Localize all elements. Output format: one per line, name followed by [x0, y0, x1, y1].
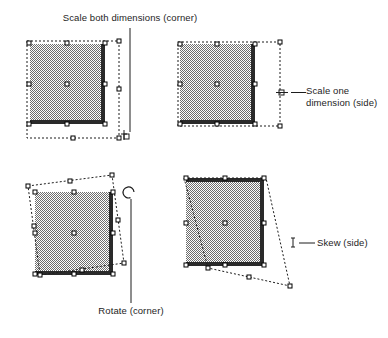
- handle-scaled-top-right[interactable]: [117, 39, 121, 43]
- handle-bottom-right[interactable]: [111, 272, 115, 276]
- handle-skewed-bottom-left[interactable]: [206, 266, 210, 270]
- handle-top-left[interactable]: [178, 42, 182, 46]
- handle-top-right[interactable]: [111, 190, 115, 194]
- caption-scale-side-line2: dimension (side): [306, 97, 388, 109]
- scale-diagonal-corner-cursor-icon: [121, 130, 129, 140]
- handle-center[interactable]: [215, 82, 219, 86]
- handle-center[interactable]: [223, 221, 227, 225]
- handle-middle-right[interactable]: [103, 82, 107, 86]
- handle-top-center[interactable]: [223, 176, 227, 180]
- handle-rotated-bottom-right[interactable]: [122, 261, 126, 265]
- panel-scale-side: [178, 40, 306, 128]
- handle-middle-right[interactable]: [111, 231, 115, 235]
- panel-skew-side: [184, 176, 315, 288]
- handle-top-center[interactable]: [65, 41, 69, 45]
- handle-bottom-center[interactable]: [72, 272, 76, 276]
- transform-handles-figure: Scale both dimensions (corner) Scale one…: [0, 0, 388, 338]
- handle-top-center[interactable]: [215, 42, 219, 46]
- rotate-circular-arrow-cursor-icon: [123, 187, 134, 198]
- handle-bottom-left[interactable]: [33, 272, 37, 276]
- handle-top-left[interactable]: [184, 176, 188, 180]
- caption-skew-side: Skew (side): [317, 237, 387, 249]
- handle-rotated-bottom-left[interactable]: [38, 273, 42, 277]
- handle-rotated-top-left[interactable]: [26, 184, 30, 188]
- handle-center[interactable]: [72, 231, 76, 235]
- handle-top-right[interactable]: [253, 42, 257, 46]
- handle-rotated-top-right[interactable]: [110, 173, 114, 177]
- caption-scale-corner: Scale both dimensions (corner): [56, 12, 204, 24]
- handle-rotated-middle-right[interactable]: [116, 218, 120, 222]
- handles-skew-skewed-box[interactable]: [206, 266, 292, 288]
- handle-bottom-center[interactable]: [215, 122, 219, 126]
- handle-top-right[interactable]: [103, 41, 107, 45]
- handle-bottom-right[interactable]: [262, 263, 266, 267]
- handle-middle-left[interactable]: [33, 231, 37, 235]
- handle-scaled-bottom-right[interactable]: [278, 124, 282, 128]
- caption-rotate-corner: Rotate (corner): [81, 305, 181, 317]
- handle-bottom-left[interactable]: [27, 122, 31, 126]
- panel-scale-corner: [27, 28, 130, 140]
- handle-scaled-bottom-right[interactable]: [117, 136, 121, 140]
- handle-scaled-middle-right[interactable]: [117, 87, 121, 91]
- handle-center[interactable]: [65, 82, 69, 86]
- handle-skewed-bottom-right[interactable]: [288, 284, 292, 288]
- handle-bottom-left[interactable]: [178, 122, 182, 126]
- handle-top-left[interactable]: [33, 190, 37, 194]
- handle-bottom-right[interactable]: [253, 122, 257, 126]
- handle-top-left[interactable]: [27, 41, 31, 45]
- handle-bottom-right[interactable]: [103, 122, 107, 126]
- handle-middle-right[interactable]: [253, 82, 257, 86]
- handle-middle-left[interactable]: [178, 82, 182, 86]
- handle-bottom-center[interactable]: [65, 122, 69, 126]
- figure-canvas: [0, 0, 388, 338]
- handle-top-right[interactable]: [262, 176, 266, 180]
- handle-skewed-bottom-center[interactable]: [247, 275, 251, 279]
- handle-bottom-center[interactable]: [223, 263, 227, 267]
- skew-ibeam-cursor-icon: [291, 238, 295, 247]
- caption-scale-side-line1: Scale one: [306, 85, 388, 97]
- handle-rotated-top-center[interactable]: [68, 179, 72, 183]
- handle-bottom-left[interactable]: [184, 263, 188, 267]
- handle-middle-left[interactable]: [184, 221, 188, 225]
- handle-top-center[interactable]: [72, 190, 76, 194]
- panel-rotate-corner: [26, 173, 134, 303]
- handle-middle-left[interactable]: [27, 82, 31, 86]
- handle-rotated-bottom-center[interactable]: [80, 268, 84, 272]
- scale-horizontal-side-cursor-icon: [276, 90, 288, 95]
- handle-scaled-top-right[interactable]: [278, 40, 282, 44]
- handle-scaled-bottom-center[interactable]: [71, 136, 75, 140]
- handle-middle-right[interactable]: [262, 221, 266, 225]
- handle-rotated-middle-left[interactable]: [32, 224, 36, 228]
